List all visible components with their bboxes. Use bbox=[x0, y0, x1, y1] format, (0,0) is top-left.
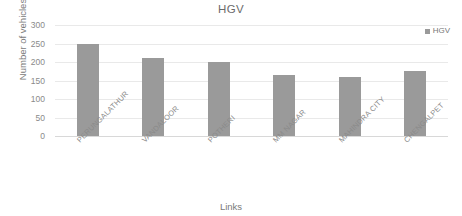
y-tick-label: 200 bbox=[31, 57, 45, 67]
y-axis-tick-labels: 300250200150100500 bbox=[0, 25, 50, 136]
gridline-0 bbox=[55, 136, 448, 137]
y-tick-label: 50 bbox=[36, 113, 45, 123]
y-tick-label: 0 bbox=[40, 131, 45, 141]
plot-area bbox=[55, 25, 448, 136]
y-tick-label: 150 bbox=[31, 76, 45, 86]
chart-title: HGV bbox=[0, 3, 462, 15]
x-axis-tick-labels: PERUNGALATHURVANDALOORPOTHERIMM NAGARMAH… bbox=[55, 138, 448, 194]
y-tick-label: 100 bbox=[31, 94, 45, 104]
hgv-bar-chart: HGV HGV Number of vehicles 3002502001501… bbox=[0, 0, 462, 216]
y-tick-label: 300 bbox=[31, 20, 45, 30]
bar-series bbox=[55, 25, 448, 136]
y-tick-label: 250 bbox=[31, 39, 45, 49]
x-axis-title: Links bbox=[0, 201, 462, 212]
